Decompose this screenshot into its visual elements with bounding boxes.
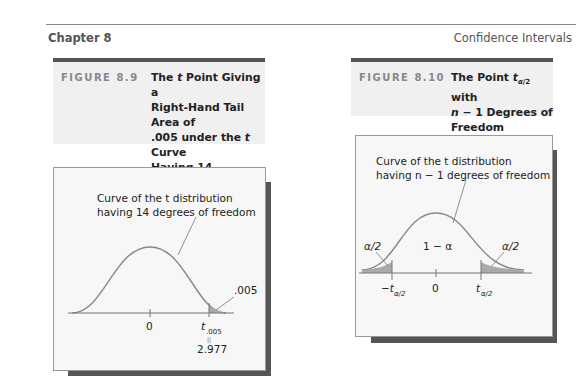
svg-text:1 − α: 1 − α <box>423 240 452 252</box>
svg-text:0: 0 <box>146 320 153 332</box>
svg-text:having 14 degrees of freedom: having 14 degrees of freedom <box>97 206 256 218</box>
figure-8-9-plot: Curve of the t distribution having 14 de… <box>53 167 266 371</box>
caption-bar <box>351 58 553 62</box>
svg-text:.005: .005 <box>234 284 257 296</box>
svg-text:having n − 1 degrees of freedo: having n − 1 degrees of freedom <box>376 169 550 181</box>
svg-text:2.977: 2.977 <box>197 343 227 355</box>
svg-text:α/2: α/2 <box>481 290 493 298</box>
figure-label: FIGURE 8.9 <box>61 72 139 83</box>
figure-label: FIGURE 8.10 <box>359 72 445 83</box>
figure-8-9-caption: FIGURE 8.9 The t Point Giving a Right-Ha… <box>53 58 265 144</box>
header-rule <box>46 24 576 25</box>
svg-text:Curve of the t distribution: Curve of the t distribution <box>97 192 233 204</box>
svg-text:−t: −t <box>381 282 395 294</box>
caption-bar <box>53 58 265 62</box>
svg-text:.005: .005 <box>206 328 222 336</box>
figure-8-10-caption: FIGURE 8.10 The Point tα/2 with n − 1 De… <box>351 58 553 116</box>
chapter-label: Chapter 8 <box>48 31 112 45</box>
svg-text:0: 0 <box>432 282 439 294</box>
figure-title: The Point tα/2 with n − 1 Degrees of Fre… <box>451 70 553 135</box>
t-curve-alpha-chart: Curve of the t distribution having n − 1… <box>356 136 552 336</box>
section-title: Confidence Intervals <box>454 31 572 45</box>
figure-8-10-plot: Curve of the t distribution having n − 1… <box>355 135 553 337</box>
svg-text:Curve of the t distribution: Curve of the t distribution <box>376 155 512 167</box>
t-curve-chart: Curve of the t distribution having 14 de… <box>54 168 265 370</box>
svg-text:α/2: α/2 <box>502 240 519 252</box>
svg-text:α/2: α/2 <box>394 290 406 298</box>
svg-text:α/2: α/2 <box>364 240 381 252</box>
